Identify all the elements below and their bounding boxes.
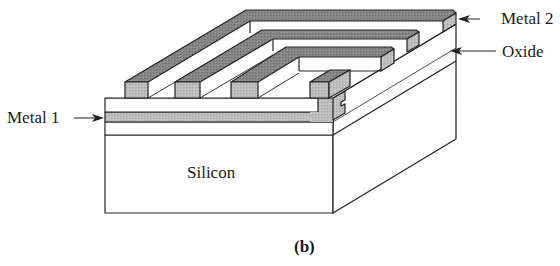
figure-caption: (b) bbox=[294, 237, 315, 256]
svg-text:Metal 2: Metal 2 bbox=[501, 9, 553, 28]
interconnect-diagram: Metal 2 Oxide Metal 1 Silicon (b) bbox=[0, 0, 560, 266]
label-silicon: Silicon bbox=[187, 163, 236, 182]
label-metal1: Metal 1 bbox=[7, 108, 104, 127]
label-metal2: Metal 2 bbox=[458, 9, 553, 28]
metal1-layer bbox=[105, 112, 333, 122]
svg-text:Metal 1: Metal 1 bbox=[7, 108, 59, 127]
lower-oxide-layer bbox=[105, 122, 333, 135]
svg-text:Oxide: Oxide bbox=[502, 42, 544, 61]
label-oxide: Oxide bbox=[450, 42, 544, 61]
oxide-layer bbox=[105, 98, 333, 112]
